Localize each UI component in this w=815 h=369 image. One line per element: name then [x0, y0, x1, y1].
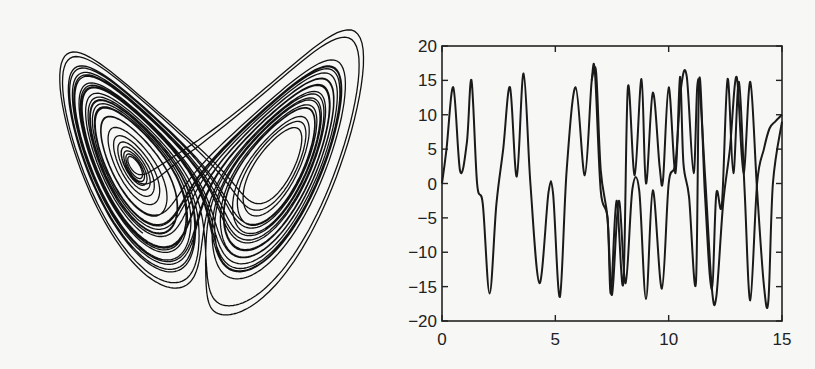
- y-tick-label: −5: [418, 209, 437, 228]
- series-lines: [442, 64, 782, 308]
- x-tick-label: 15: [773, 330, 792, 349]
- y-tick-label: 20: [418, 37, 437, 56]
- y-tick-label: −20: [408, 312, 437, 331]
- y-tick-label: 5: [428, 140, 437, 159]
- y-tick-label: 10: [418, 106, 437, 125]
- y-tick-label: −15: [408, 278, 437, 297]
- x-tick-label: 0: [437, 330, 446, 349]
- x-tick-label: 5: [551, 330, 560, 349]
- time-series-plot: 20151050−5−10−15−20 051015: [0, 0, 815, 369]
- y-tick-label: 0: [428, 175, 437, 194]
- y-tick-label: 15: [418, 71, 437, 90]
- series-trajectory-1: [442, 64, 782, 301]
- y-tick-label: −10: [408, 243, 437, 262]
- x-tick-label: 10: [659, 330, 678, 349]
